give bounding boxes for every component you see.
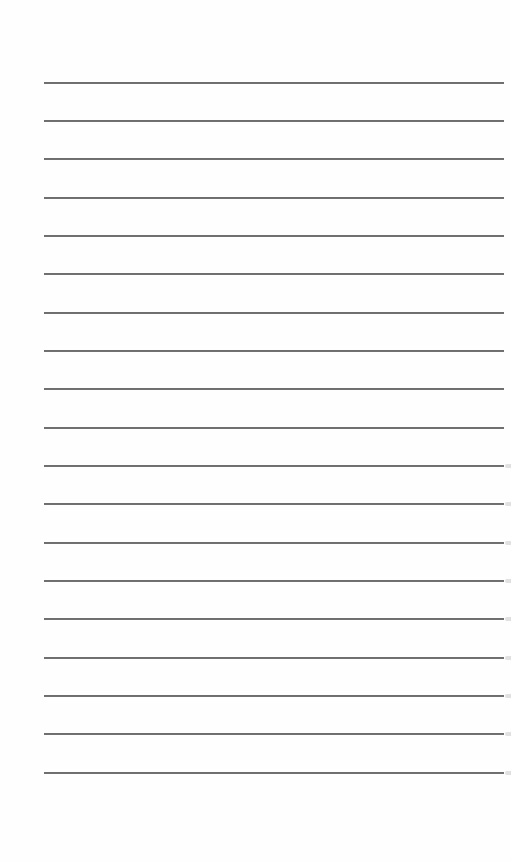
ruled-line	[44, 273, 504, 275]
edge-shadow-mark	[505, 656, 511, 660]
edge-shadow-mark	[505, 502, 511, 506]
ruled-line	[44, 312, 504, 314]
edge-shadow-mark	[505, 732, 511, 736]
ruled-line	[44, 542, 504, 544]
ruled-line	[44, 158, 504, 160]
edge-shadow-mark	[505, 771, 511, 775]
edge-shadow-mark	[505, 579, 511, 583]
ruled-line	[44, 388, 504, 390]
ruled-line	[44, 350, 504, 352]
ruled-line	[44, 772, 504, 774]
ruled-line	[44, 580, 504, 582]
edge-shadow-mark	[505, 694, 511, 698]
ruled-line	[44, 733, 504, 735]
ruled-line	[44, 503, 504, 505]
ruled-line	[44, 695, 504, 697]
ruled-line	[44, 465, 504, 467]
ruled-line	[44, 427, 504, 429]
ruled-line	[44, 120, 504, 122]
ruled-line	[44, 657, 504, 659]
ruled-line	[44, 618, 504, 620]
edge-shadow-mark	[505, 541, 511, 545]
ruled-line	[44, 235, 504, 237]
ruled-line	[44, 82, 504, 84]
edge-shadow-mark	[505, 464, 511, 468]
ruled-line	[44, 197, 504, 199]
ruled-page	[0, 0, 511, 862]
edge-shadow-mark	[505, 617, 511, 621]
